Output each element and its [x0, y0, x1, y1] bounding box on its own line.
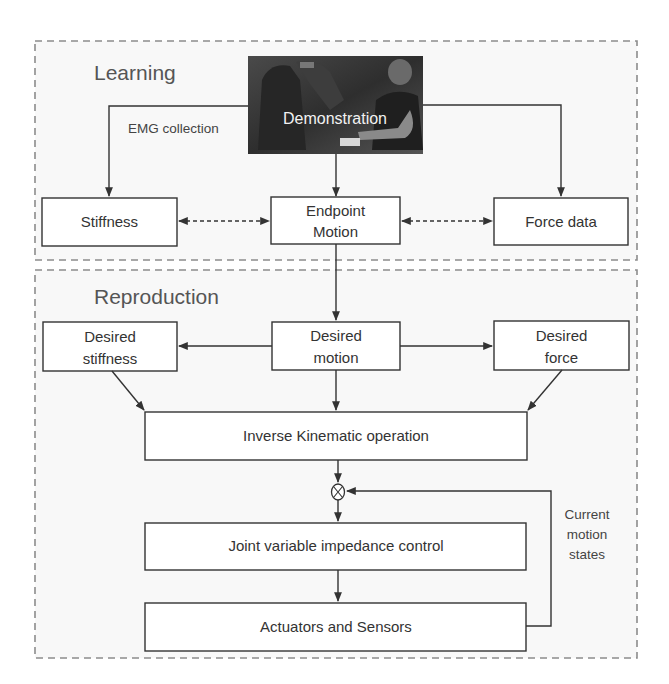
desired-stiffness-label-line1: Desired [84, 328, 136, 345]
joint-impedance-box: Joint variable impedance control [145, 523, 526, 570]
demonstration-photo: Demonstration [248, 56, 423, 154]
desired-force-label-line2: force [545, 349, 578, 366]
desired-stiffness-box: Desired stiffness [43, 322, 177, 371]
demonstration-label: Demonstration [283, 110, 387, 127]
feedback-label-line2: motion [567, 527, 608, 542]
learning-reproduction-diagram: Learning Demonstration EMG collection St… [0, 0, 669, 684]
inverse-kinematic-label: Inverse Kinematic operation [243, 427, 429, 444]
actuators-sensors-box: Actuators and Sensors [145, 603, 526, 651]
force-data-label: Force data [525, 213, 597, 230]
reproduction-panel: Reproduction Desired stiffness Desired m… [35, 244, 637, 658]
reproduction-title: Reproduction [94, 285, 219, 308]
inverse-kinematic-box: Inverse Kinematic operation [145, 412, 527, 460]
desired-motion-label-line1: Desired [310, 327, 362, 344]
desired-motion-box: Desired motion [272, 322, 400, 370]
desired-force-box: Desired force [494, 321, 629, 370]
endpoint-motion-label-line2: Motion [313, 223, 358, 240]
learning-panel: Learning Demonstration EMG collection St… [35, 41, 637, 260]
feedback-label-line1: Current [564, 507, 609, 522]
endpoint-motion-box: Endpoint Motion [271, 197, 400, 244]
joint-impedance-label: Joint variable impedance control [228, 537, 443, 554]
stiffness-box: Stiffness [42, 198, 177, 246]
learning-title: Learning [94, 61, 176, 84]
desired-force-label-line1: Desired [536, 327, 588, 344]
force-data-box: Force data [494, 198, 628, 245]
feedback-label-line3: states [569, 547, 605, 562]
desired-motion-label-line2: motion [313, 349, 358, 366]
summing-junction-icon [332, 484, 345, 500]
actuators-sensors-label: Actuators and Sensors [260, 618, 412, 635]
endpoint-motion-label-line1: Endpoint [306, 202, 366, 219]
stiffness-label: Stiffness [81, 213, 138, 230]
emg-collection-label: EMG collection [128, 121, 219, 136]
desired-stiffness-label-line2: stiffness [83, 350, 138, 367]
